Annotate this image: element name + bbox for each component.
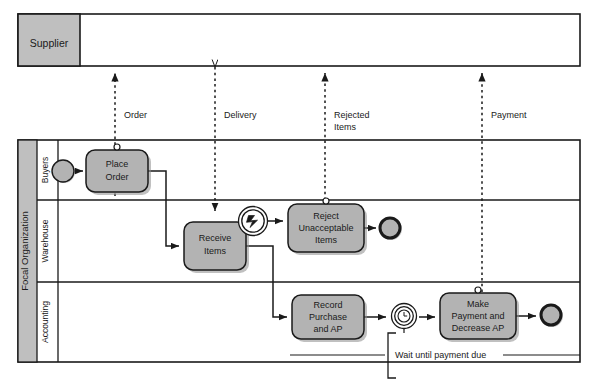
task-reject-unacceptable-items[interactable]: Reject Unacceptable Items — [288, 198, 367, 255]
task-place-order-box — [86, 150, 148, 192]
task-record-purchase-label-line3: and AP — [313, 324, 342, 334]
task-receive-items-label-line2: Items — [204, 246, 227, 256]
message-send-icon — [114, 144, 120, 150]
end-event-reject-circle — [380, 218, 400, 238]
task-reject-items-label-line1: Reject — [313, 211, 339, 221]
end-event-payment[interactable] — [541, 305, 563, 327]
task-reject-items-label-line2: Unacceptable — [298, 223, 353, 233]
task-place-order-label-line2: Order — [105, 172, 128, 182]
message-send-icon — [475, 287, 481, 293]
task-make-payment-label-line3: Decrease AP — [452, 323, 505, 333]
lane-buyers[interactable]: Buyers — [40, 157, 50, 183]
lane-accounting-label: Accounting — [40, 301, 50, 343]
task-reject-items-label-line3: Items — [315, 235, 338, 245]
intermediate-error-event[interactable] — [239, 207, 268, 236]
task-record-purchase-and-ap[interactable]: Record Purchase and AP — [292, 295, 367, 342]
lane-warehouse[interactable]: Warehouse — [40, 219, 50, 262]
message-send-icon — [323, 198, 329, 204]
task-receive-items-label-line1: Receive — [199, 233, 232, 243]
lane-buyers-label: Buyers — [40, 157, 50, 183]
message-flow-payment-label: Payment — [491, 110, 527, 120]
task-record-purchase-label-line1: Record — [313, 300, 342, 310]
pool-supplier-body — [18, 14, 580, 66]
task-receive-items[interactable]: Receive Items — [184, 222, 249, 273]
task-make-payment-label-line1: Make — [467, 299, 489, 309]
annotation-wait-label: Wait until payment due — [395, 350, 486, 360]
task-place-order[interactable]: Place Order — [86, 144, 151, 195]
lane-warehouse-label: Warehouse — [40, 219, 50, 262]
message-flow-delivery-label: Delivery — [224, 110, 257, 120]
task-place-order-label-line1: Place — [106, 159, 129, 169]
end-event-payment-circle — [541, 305, 561, 325]
lane-accounting[interactable]: Accounting — [40, 301, 50, 343]
intermediate-timer-event[interactable] — [392, 304, 417, 329]
pool-supplier-label: Supplier — [30, 37, 69, 49]
bpmn-diagram-canvas: Supplier Focal Organization Buyers Wareh… — [0, 0, 595, 385]
message-flow-rejected-label: Rejected — [334, 110, 370, 120]
task-make-payment-decrease-ap[interactable]: Make Payment and Decrease AP — [440, 287, 519, 342]
task-make-payment-label-line2: Payment and — [451, 311, 504, 321]
end-event-reject[interactable] — [380, 218, 402, 240]
start-event-circle — [52, 160, 74, 182]
start-event-buyers[interactable] — [52, 160, 75, 183]
message-flow-rejected-label-line2: Items — [334, 122, 357, 132]
bpmn-diagram: Supplier Focal Organization Buyers Wareh… — [0, 0, 595, 385]
pool-focal-label: Focal Organization — [19, 211, 30, 291]
pool-supplier[interactable]: Supplier — [18, 14, 580, 66]
task-record-purchase-label-line2: Purchase — [309, 312, 347, 322]
message-flow-order-label: Order — [124, 110, 147, 120]
